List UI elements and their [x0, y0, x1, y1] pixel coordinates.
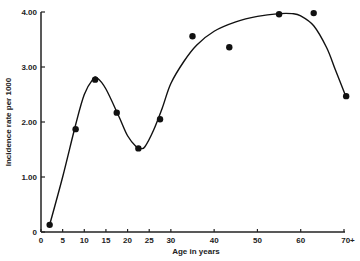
- data-points: [46, 10, 349, 228]
- x-tick-label: 30: [166, 236, 175, 245]
- y-tick-label: 0: [33, 228, 38, 237]
- y-tick-label: 3.00: [21, 63, 37, 72]
- y-axis-title: Incidence rate per 1000: [4, 77, 13, 166]
- data-point: [189, 33, 195, 39]
- x-tick-label: 70+: [341, 236, 355, 245]
- data-point: [135, 145, 141, 151]
- x-axis-title: Age in years: [172, 247, 220, 256]
- x-tick-label: 20: [123, 236, 132, 245]
- chart: 01.002.003.004.00 Incidence rate per 100…: [0, 0, 360, 261]
- x-tick-label: 60: [296, 236, 305, 245]
- data-point: [72, 126, 78, 132]
- plot-area: [46, 10, 349, 228]
- x-tick-label: 15: [101, 236, 110, 245]
- x-tick-label: 50: [253, 236, 262, 245]
- y-tick-label: 1.00: [21, 173, 37, 182]
- x-axis: 05101520253040506070+ Age in years: [39, 229, 355, 256]
- fitted-curve: [50, 13, 347, 225]
- y-tick-label: 2.00: [21, 118, 37, 127]
- data-point: [157, 116, 163, 122]
- x-tick-label: 0: [39, 236, 44, 245]
- x-tick-label: 40: [210, 236, 219, 245]
- data-point: [92, 76, 98, 82]
- data-point: [311, 10, 317, 16]
- x-tick-label: 25: [145, 236, 154, 245]
- x-tick-label: 10: [80, 236, 89, 245]
- data-point: [343, 93, 349, 99]
- data-point: [226, 44, 232, 50]
- y-axis: 01.002.003.004.00 Incidence rate per 100…: [4, 8, 45, 237]
- x-tick-label: 5: [60, 236, 65, 245]
- y-tick-label: 4.00: [21, 8, 37, 17]
- data-point: [276, 11, 282, 17]
- data-point: [46, 222, 52, 228]
- data-point: [114, 109, 120, 115]
